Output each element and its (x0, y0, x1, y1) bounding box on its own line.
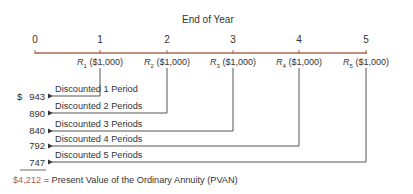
pv-value-4: 792 (15, 140, 45, 151)
discount-label-3: Discounted 3 Periods (55, 119, 142, 129)
connector-lines (0, 0, 413, 194)
pv-value-1: 943 (15, 91, 45, 102)
receipt-label-4: R4 ($1,000) (276, 57, 322, 69)
total-amount: $4,212 (13, 175, 41, 185)
discount-label-2: Discounted 2 Periods (55, 101, 142, 111)
tick-label-5: 5 (363, 34, 369, 45)
tick-label-3: 3 (230, 34, 236, 45)
total-line: $4,212 = Present Value of the Ordinary A… (13, 175, 238, 185)
tick-label-0: 0 (32, 34, 38, 45)
equals-sign: = (44, 175, 49, 185)
pv-value-5: 747 (15, 157, 45, 168)
pv-value-3: 840 (15, 125, 45, 136)
total-label: Present Value of the Ordinary Annuity (P… (52, 175, 238, 185)
discount-label-1: Discounted 1 Period (55, 84, 138, 94)
tick-label-4: 4 (296, 34, 302, 45)
axis-title: End of Year (182, 14, 234, 25)
tick-label-2: 2 (164, 34, 170, 45)
pv-value-2: 890 (15, 108, 45, 119)
receipt-label-2: R2 ($1,000) (144, 57, 190, 69)
receipt-label-3: R3 ($1,000) (210, 57, 256, 69)
receipt-label-5: R5 ($1,000) (343, 57, 389, 69)
tick-label-1: 1 (97, 34, 103, 45)
discount-label-4: Discounted 4 Periods (55, 134, 142, 144)
discount-label-5: Discounted 5 Periods (55, 150, 142, 160)
receipt-label-1: R1 ($1,000) (77, 57, 123, 69)
